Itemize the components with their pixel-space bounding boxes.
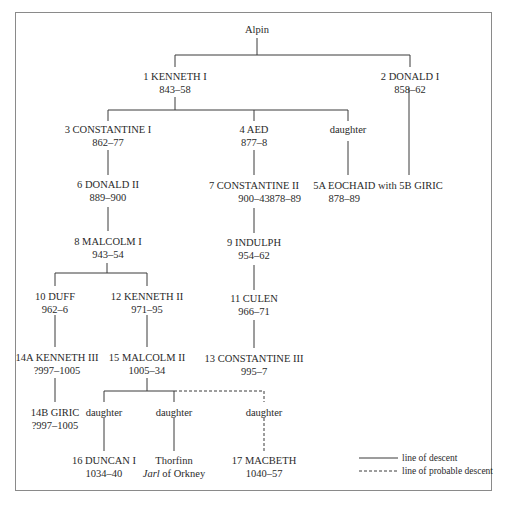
node-daughter-2: daughter [156, 406, 193, 419]
node-dates: 943–54 [74, 248, 142, 261]
node-name: 7 CONSTANTINE II [209, 179, 299, 192]
node-constantine-i: 3 CONSTANTINE I 862–77 [65, 123, 152, 149]
node-alpin: Alpin [245, 23, 269, 36]
node-name: 8 MALCOLM I [74, 235, 142, 248]
node-name: 14A KENNETH III [16, 351, 99, 364]
node-daughter-3: daughter [246, 406, 283, 419]
legend-dashed-label: line of probable descent [402, 465, 493, 477]
node-dates: 1040–57 [232, 467, 296, 480]
node-dates: 962–6 [35, 303, 75, 316]
node-dates-row: 878–89 878–89 [313, 192, 443, 205]
node-dates: 889–900 [77, 191, 139, 204]
node-dates: ?997–1005 [16, 364, 99, 377]
node-title-italic: Jarl [143, 468, 160, 479]
node-malcolm-i: 8 MALCOLM I 943–54 [74, 235, 142, 261]
node-name: 14B GIRIC [31, 406, 80, 419]
node-name: daughter [156, 406, 193, 419]
node-dates: 843–58 [143, 83, 207, 96]
node-dates: 954–62 [227, 249, 281, 262]
node-name: Alpin [245, 23, 269, 36]
node-kenneth-i: 1 KENNETH I 843–58 [143, 70, 207, 96]
node-culen: 11 CULEN 966–71 [230, 292, 278, 318]
node-donald-ii: 6 DONALD II 889–900 [77, 178, 139, 204]
node-dates: 995–7 [205, 365, 304, 378]
node-name: 3 CONSTANTINE I [65, 123, 152, 136]
node-dates: 1034–40 [72, 467, 136, 480]
node-name: 15 MALCOLM II [109, 351, 185, 364]
node-name: 12 KENNETH II [111, 290, 183, 303]
node-dates: 862–77 [65, 136, 152, 149]
node-eochaid-with-giric: 5A EOCHAID with 5B GIRIC 878–89 878–89 [313, 179, 443, 205]
node-kenneth-iii: 14A KENNETH III ?997–1005 [16, 351, 99, 377]
node-daughter-1: daughter [86, 406, 123, 419]
node-title-rest: of Orkney [160, 468, 206, 479]
node-donald-i: 2 DONALD I 858–62 [381, 70, 439, 96]
node-name: daughter [246, 406, 283, 419]
node-name: 2 DONALD I [381, 70, 439, 83]
node-macbeth: 17 MACBETH 1040–57 [232, 454, 296, 480]
legend-solid-label: line of descent [402, 452, 457, 464]
node-dates: 877–8 [240, 136, 269, 149]
node-name: daughter [330, 123, 367, 136]
node-name: Thorfinn [143, 454, 205, 467]
node-thorfinn: Thorfinn Jarl of Orkney [143, 454, 205, 480]
node-dates: 966–71 [230, 305, 278, 318]
node-constantine-iii: 13 CONSTANTINE III 995–7 [205, 352, 304, 378]
node-name: 11 CULEN [230, 292, 278, 305]
node-malcolm-ii: 15 MALCOLM II 1005–34 [109, 351, 185, 377]
node-title: Jarl of Orkney [143, 467, 205, 480]
node-aed: 4 AED 877–8 [240, 123, 269, 149]
node-name: 17 MACBETH [232, 454, 296, 467]
node-indulph: 9 INDULPH 954–62 [227, 236, 281, 262]
node-name: 10 DUFF [35, 290, 75, 303]
node-name: daughter [86, 406, 123, 419]
node-name: 4 AED [240, 123, 269, 136]
node-name: 16 DUNCAN I [72, 454, 136, 467]
node-duff: 10 DUFF 962–6 [35, 290, 75, 316]
eochaid-dates: 878–89 [269, 192, 301, 205]
node-name: 6 DONALD II [77, 178, 139, 191]
node-dates: 971–95 [111, 303, 183, 316]
node-kenneth-ii: 12 KENNETH II 971–95 [111, 290, 183, 316]
node-dates: 1005–34 [109, 364, 185, 377]
node-daughter-kenneth: daughter [330, 123, 367, 136]
node-dates: 858–62 [381, 83, 439, 96]
node-name: 9 INDULPH [227, 236, 281, 249]
node-giric-14b: 14B GIRIC ?997–1005 [31, 406, 80, 432]
node-name: 1 KENNETH I [143, 70, 207, 83]
node-duncan-i: 16 DUNCAN I 1034–40 [72, 454, 136, 480]
node-dates: ?997–1005 [31, 419, 80, 432]
node-name: 13 CONSTANTINE III [205, 352, 304, 365]
giric-dates: 878–89 [328, 192, 360, 205]
node-name: 5A EOCHAID with 5B GIRIC [313, 179, 443, 192]
